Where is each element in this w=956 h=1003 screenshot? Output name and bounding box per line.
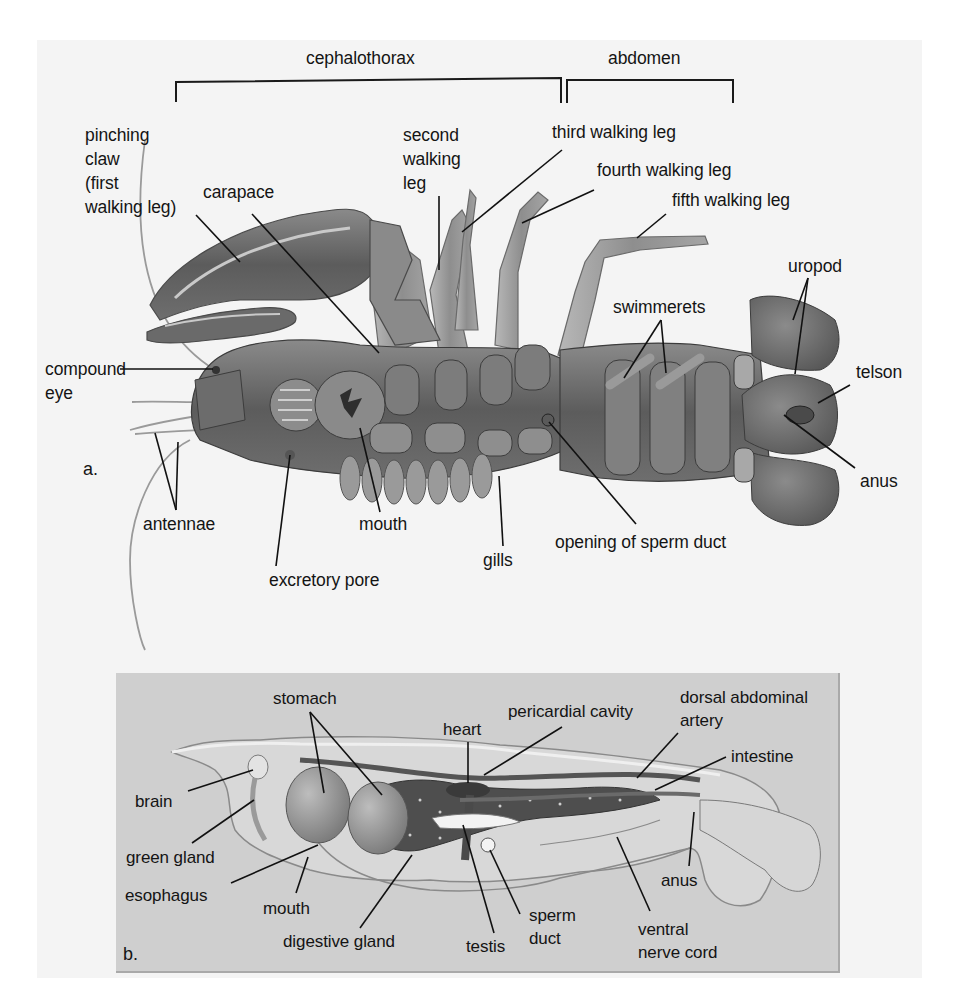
label-digestive-gland: digestive gland [283, 930, 395, 953]
label-intestine: intestine [731, 745, 793, 768]
label-testis: testis [466, 935, 505, 958]
label-mouth-b: mouth [263, 897, 310, 920]
label-green-gland: green gland [126, 846, 215, 869]
label-stomach: stomach [273, 687, 337, 710]
label-pericardial-cavity: pericardial cavity [508, 700, 633, 723]
label-esophagus: esophagus [125, 884, 207, 907]
label-dorsal-abdominal-artery: dorsal abdominal artery [680, 686, 808, 732]
label-ventral-nerve-cord: ventral nerve cord [638, 918, 717, 964]
label-sperm-duct: sperm duct [529, 904, 576, 950]
label-heart: heart [443, 718, 481, 741]
label-brain: brain [135, 790, 172, 813]
panel-b-letter: b. [123, 944, 138, 965]
label-anus-b: anus [661, 869, 697, 892]
